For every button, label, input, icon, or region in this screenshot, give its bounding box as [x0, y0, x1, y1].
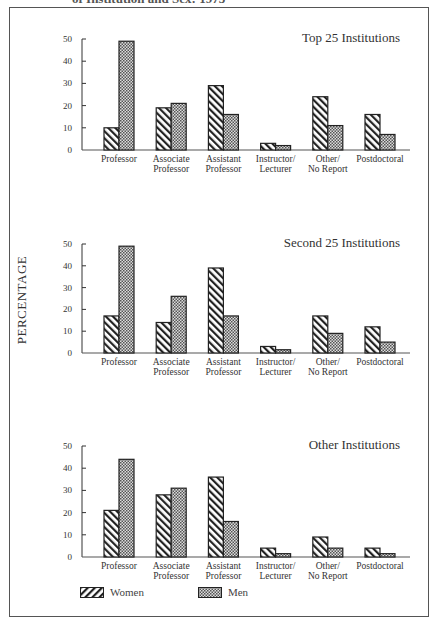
category-label: Other/ [316, 561, 341, 571]
bar-women [156, 322, 171, 353]
category-label: Instructor/ [256, 357, 296, 367]
y-tick-label: 50 [63, 441, 73, 451]
bar-men [119, 459, 134, 557]
bar-women [365, 548, 380, 557]
legend: Women Men [80, 586, 302, 598]
hatch-swatch-icon [80, 587, 104, 598]
category-label: Professor [153, 164, 190, 174]
chart-title: Second 25 Institutions [284, 235, 400, 250]
y-tick-label: 50 [63, 34, 73, 44]
bar-men [380, 554, 395, 557]
category-label: Associate [153, 561, 190, 571]
category-label: Postdoctoral [356, 561, 404, 571]
y-tick-label: 30 [63, 78, 73, 88]
category-label: Assistant [206, 154, 241, 164]
bar-women [104, 128, 119, 150]
bar-men [171, 488, 186, 557]
y-tick-label: 50 [63, 239, 73, 249]
y-tick-label: 20 [63, 304, 73, 314]
bar-women [313, 97, 328, 150]
bar-women [261, 346, 276, 353]
category-label: Professor [101, 561, 138, 571]
y-tick-label: 40 [63, 463, 73, 473]
bar-men [380, 134, 395, 150]
category-label: Instructor/ [256, 561, 296, 571]
bar-women [156, 108, 171, 150]
bar-men [328, 548, 343, 557]
y-tick-label: 0 [68, 145, 73, 155]
bar-women [156, 495, 171, 557]
category-label: No Report [308, 367, 348, 377]
bar-men [328, 126, 343, 150]
category-label: Lecturer [260, 367, 293, 377]
bar-women [208, 268, 223, 353]
bar-men [276, 146, 291, 150]
bar-men [119, 41, 134, 150]
bar-men [119, 246, 134, 353]
bar-men [223, 316, 238, 353]
bar-women [261, 548, 276, 557]
bar-men [380, 342, 395, 353]
bar-women [313, 537, 328, 557]
chart-title: Other Institutions [309, 437, 400, 452]
y-tick-label: 30 [63, 283, 73, 293]
bar-men [276, 554, 291, 557]
category-label: Professor [153, 571, 190, 581]
legend-label-men: Men [228, 586, 248, 598]
y-tick-label: 10 [63, 326, 73, 336]
category-label: Professor [101, 357, 138, 367]
category-label: Instructor/ [256, 154, 296, 164]
category-label: No Report [308, 571, 348, 581]
category-label: Professor [205, 164, 242, 174]
y-tick-label: 40 [63, 261, 73, 271]
category-label: Lecturer [260, 571, 293, 581]
category-label: Professor [205, 571, 242, 581]
y-tick-label: 30 [63, 485, 73, 495]
bar-women [365, 327, 380, 353]
legend-label-women: Women [110, 586, 144, 598]
bar-men [223, 521, 238, 557]
bar-women [365, 114, 380, 150]
chart-panel: Second 25 Institutions01020304050Profess… [63, 235, 410, 377]
bar-women [104, 316, 119, 353]
category-label: Professor [101, 154, 138, 164]
category-label: Associate [153, 154, 190, 164]
y-tick-label: 10 [63, 123, 73, 133]
category-label: Other/ [316, 357, 341, 367]
checker-swatch-icon [198, 587, 222, 598]
y-tick-label: 0 [68, 552, 73, 562]
category-label: Postdoctoral [356, 357, 404, 367]
y-tick-label: 0 [68, 348, 73, 358]
bar-women [208, 86, 223, 150]
bar-men [171, 103, 186, 150]
bar-men [223, 114, 238, 150]
bar-women [261, 143, 276, 150]
y-tick-label: 20 [63, 101, 73, 111]
category-label: Professor [205, 367, 242, 377]
chart-panel: Top 25 Institutions01020304050ProfessorA… [63, 30, 410, 174]
category-label: Associate [153, 357, 190, 367]
bar-men [328, 333, 343, 353]
y-tick-label: 40 [63, 56, 73, 66]
bar-women [208, 477, 223, 557]
chart-title: Top 25 Institutions [302, 30, 400, 45]
category-label: Assistant [206, 357, 241, 367]
y-tick-label: 10 [63, 530, 73, 540]
y-axis-label: PERCENTAGE [14, 256, 30, 344]
bar-charts: Top 25 Institutions01020304050ProfessorA… [0, 0, 438, 625]
y-tick-label: 20 [63, 508, 73, 518]
category-label: Lecturer [260, 164, 293, 174]
legend-item-women: Women [80, 586, 144, 598]
legend-item-men: Men [198, 586, 248, 598]
category-label: Postdoctoral [356, 154, 404, 164]
category-label: Assistant [206, 561, 241, 571]
category-label: No Report [308, 164, 348, 174]
bar-women [104, 510, 119, 557]
category-label: Other/ [316, 154, 341, 164]
chart-panel: Other Institutions01020304050ProfessorAs… [63, 437, 410, 581]
bar-men [171, 296, 186, 353]
bar-men [276, 350, 291, 353]
category-label: Professor [153, 367, 190, 377]
bar-women [313, 316, 328, 353]
